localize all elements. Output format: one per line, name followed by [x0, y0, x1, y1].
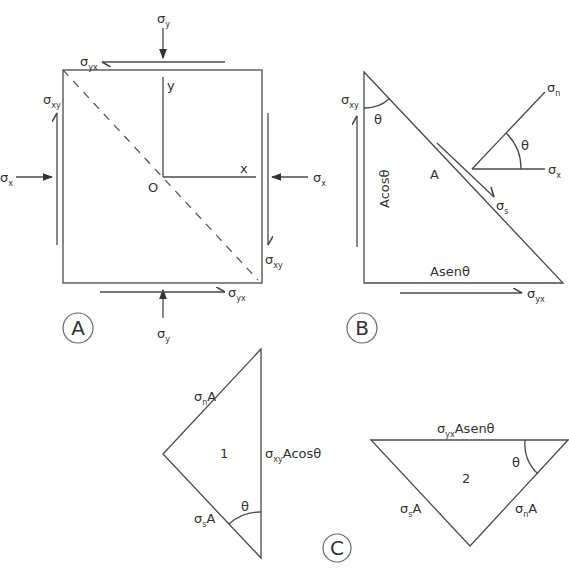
panel-b: σxy θ A Acosθ Asenθ σs σn θ σx σyx B	[341, 72, 563, 343]
label-sigma-xy-acos: σxyAcosθ	[265, 446, 321, 464]
force-triangle-1	[163, 349, 261, 558]
normal-direction-line	[472, 92, 545, 169]
sigma-s-arrow	[437, 143, 494, 197]
panel-c-label: C	[330, 536, 344, 560]
label-acos: Acosθ	[377, 169, 392, 208]
theta-arc-b	[364, 99, 389, 108]
label-sigma-n: σn	[547, 80, 560, 98]
panel-c: σnA 1 σxyAcosθ σsA θ σyxAsenθ θ 2 σsA σn…	[163, 349, 568, 562]
label-axis-y: y	[167, 78, 175, 93]
label-sigma-x-right: σx	[313, 170, 326, 188]
theta-arc-c2	[525, 440, 538, 474]
label-sigma-yx-b: σyx	[527, 286, 545, 304]
label-sigma-yx-bottom: σyx	[228, 285, 246, 303]
theta-arc-inset	[506, 133, 521, 169]
panel-a-label: A	[71, 316, 85, 340]
label-sigma-x-b: σx	[548, 162, 561, 180]
label-sigma-yx-asen: σyxAsenθ	[437, 421, 495, 439]
label-sigma-n-a-2: σnA	[515, 501, 537, 519]
label-theta-b: θ	[374, 112, 382, 127]
label-theta-inset: θ	[521, 138, 529, 153]
label-area: A	[430, 167, 439, 182]
label-sigma-x-left: σx	[0, 170, 13, 188]
label-tri1-number: 1	[220, 446, 228, 461]
label-sigma-n-a-1: σnA	[194, 389, 216, 407]
label-sigma-y-bottom: σy	[157, 326, 170, 344]
label-origin: O	[148, 180, 158, 195]
label-sigma-yx-top: σyx	[80, 54, 98, 72]
label-sigma-y-top: σy	[157, 11, 170, 29]
label-sigma-xy-left: σxy	[43, 92, 61, 110]
panel-b-label: B	[355, 316, 369, 340]
label-asen: Asenθ	[430, 264, 470, 279]
label-theta-c2: θ	[512, 455, 520, 470]
label-sigma-xy-right: σxy	[265, 252, 283, 270]
cut-plane-dashed	[63, 70, 258, 280]
label-axis-x: x	[240, 161, 248, 176]
stress-diagram: σy σyx σxy σx σx σxy σyx σy y x O A σxy …	[0, 0, 569, 568]
panel-a: σy σyx σxy σx σx σxy σyx σy y x O A	[0, 11, 326, 344]
label-sigma-xy-b: σxy	[341, 92, 359, 110]
label-sigma-s-a-1: σsA	[194, 511, 215, 529]
force-triangle-2	[371, 440, 568, 546]
label-sigma-s-a-2: σsA	[400, 501, 421, 519]
label-tri2-number: 2	[462, 471, 470, 486]
label-theta-c1: θ	[241, 499, 249, 514]
